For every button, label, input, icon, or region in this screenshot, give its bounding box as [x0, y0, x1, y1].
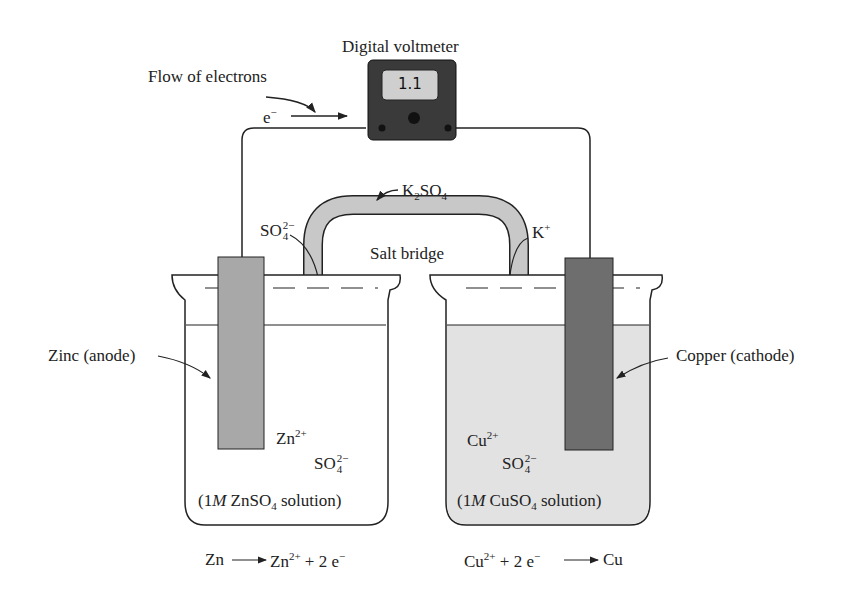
salt-bridge-label: Salt bridge [370, 245, 444, 262]
znso4-solution-label: (1M ZnSO4 solution) [198, 492, 341, 512]
right-migrating-ion: K+ [532, 222, 551, 241]
cathode-half-reaction-right: Cu [603, 551, 623, 568]
cathode-beaker [430, 258, 662, 525]
flow-of-electrons-label: Flow of electrons [148, 68, 267, 85]
cuso4-solution-label: (1M CuSO4 solution) [457, 492, 601, 512]
electron-label: e− [263, 107, 277, 126]
salt-bridge-compound: K2SO4 [402, 182, 447, 202]
zn-ion-label: Zn2+ [276, 428, 307, 447]
meter-reading: 1.1 [383, 71, 437, 97]
copper-cathode-label: Copper (cathode) [676, 347, 794, 364]
copper-electrode [565, 258, 613, 450]
cathode-half-reaction-left: Cu2+ + 2 e− [464, 551, 540, 570]
cu-ion-label: Cu2+ [467, 430, 499, 449]
anode-half-reaction-right: Zn2+ + 2 e− [270, 551, 345, 570]
anode-beaker [172, 257, 400, 525]
cathode-sulfate-label: SO2−4 [502, 455, 542, 473]
zinc-anode-label: Zinc (anode) [48, 347, 135, 364]
left-migrating-ion: SO2−4 [260, 222, 300, 240]
voltmeter-title: Digital voltmeter [342, 38, 459, 55]
anode-sulfate-label: SO2−4 [314, 455, 354, 473]
anode-half-reaction-left: Zn [205, 551, 224, 568]
zinc-electrode [218, 257, 264, 449]
